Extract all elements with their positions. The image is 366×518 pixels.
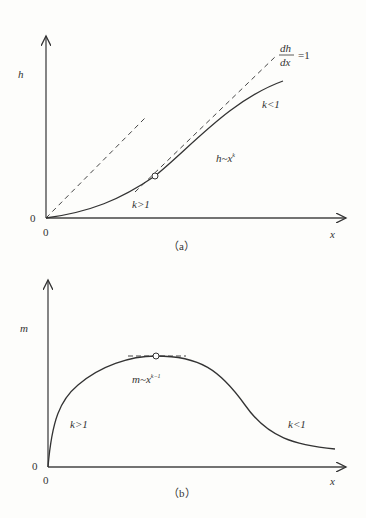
k-less-label-a: k<1 xyxy=(262,98,280,110)
caption-b: （b） xyxy=(168,487,196,499)
origin-x-label: 0 xyxy=(43,474,49,486)
y-axis-label: m xyxy=(20,322,28,334)
x-axis-label: x xyxy=(329,475,335,487)
panel-b: m x 0 0 m~xk−1 k>1 k<1 （b） xyxy=(20,280,346,499)
reference-dashed-line xyxy=(46,118,145,218)
k-greater-label-b: k>1 xyxy=(70,418,88,430)
slope-value: =1 xyxy=(298,49,310,61)
origin-x-label: 0 xyxy=(43,226,49,238)
slope-denominator: dx xyxy=(280,56,291,68)
x-axis-label: x xyxy=(329,228,335,240)
m-curve xyxy=(48,356,335,467)
h-curve xyxy=(46,81,283,218)
origin-y-label: 0 xyxy=(32,460,38,472)
origin-y-label: 0 xyxy=(30,212,36,224)
caption-a: （a） xyxy=(168,240,195,252)
k-less-label-b: k<1 xyxy=(288,418,306,430)
k-greater-label-a: k>1 xyxy=(132,198,150,210)
inflection-point xyxy=(152,173,158,179)
y-axis-label: h xyxy=(18,68,24,80)
power-law-label-a: h~xk xyxy=(216,152,235,164)
slope-numerator: dh xyxy=(280,42,292,54)
peak-point xyxy=(153,353,159,359)
panel-a: h x 0 0 dh dx =1 k<1 k>1 h~xk （a） xyxy=(18,36,346,252)
tangent-dashed-line xyxy=(135,56,276,192)
power-law-label-b: m~xk−1 xyxy=(132,373,161,385)
diagram-canvas: h x 0 0 dh dx =1 k<1 k>1 h~xk （a） m x 0 … xyxy=(0,0,366,518)
